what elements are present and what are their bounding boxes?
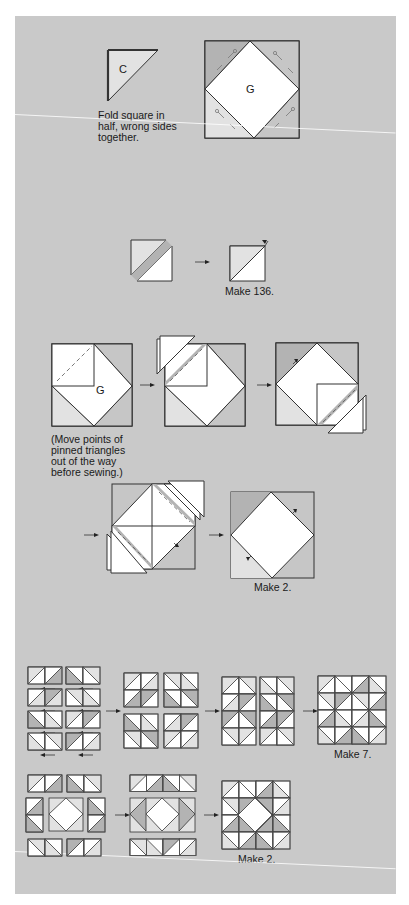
arrow-right-icon <box>204 812 219 818</box>
assembled-bottom-row <box>129 838 196 857</box>
move-points-caption: (Move points of pinned triangles out of … <box>51 434 125 478</box>
hst-column-unit <box>87 797 106 833</box>
block-half-unit <box>221 676 257 746</box>
assembled-middle-row <box>129 797 196 833</box>
block-g-label: G <box>246 84 255 95</box>
arrow-right-icon <box>115 812 130 818</box>
arrow-right-icon <box>106 708 121 714</box>
finished-block-make-7 <box>317 675 385 745</box>
hst-row-unit <box>66 774 102 793</box>
folded-triangle-c-icon <box>107 49 159 102</box>
arrow-right-icon <box>140 383 155 387</box>
arrow-right-icon <box>195 260 210 264</box>
arrow-right-icon <box>303 708 318 714</box>
hst-row-unit <box>65 666 101 685</box>
four-patch-unit <box>163 713 199 750</box>
hst-row-unit <box>66 838 102 857</box>
square-in-square-unit <box>48 797 84 832</box>
hst-row-unit <box>65 688 101 707</box>
four-patch-unit <box>123 713 159 750</box>
block-g-folded-corner-icon <box>51 343 133 428</box>
assembled-top-row <box>129 774 196 793</box>
finished-block-make-2 <box>221 780 289 850</box>
half-square-triangle-unit-icon <box>229 240 269 282</box>
arrow-right-icon <box>257 383 272 387</box>
make-136-caption: Make 136. <box>225 286 274 297</box>
hst-row-unit <box>27 838 63 857</box>
arrow-right-icon <box>78 752 93 758</box>
square-in-square-block-icon <box>230 491 315 579</box>
two-triangles-icon <box>130 239 173 282</box>
block-g-label-step3: G <box>96 385 105 396</box>
hst-row-unit <box>27 710 63 729</box>
arrow-right-icon <box>84 533 99 537</box>
hst-row-unit <box>27 774 63 793</box>
hst-row-unit <box>27 666 63 685</box>
hst-row-unit <box>27 688 63 707</box>
hst-row-unit <box>65 710 101 729</box>
four-patch-unit <box>163 672 199 709</box>
hst-column-unit <box>25 797 44 833</box>
triangle-c-label: C <box>119 64 127 75</box>
block-sewing-opposite-corners-icon <box>104 482 206 586</box>
fold-instruction-caption: Fold square in half, wrong sides togethe… <box>98 110 177 143</box>
hst-row-unit <box>27 732 63 751</box>
block-half-unit <box>259 676 295 746</box>
four-patch-unit <box>123 672 159 709</box>
make-7-caption: Make 7. <box>334 749 371 760</box>
block-g-second-corner-icon <box>275 342 367 440</box>
arrow-right-icon <box>205 708 220 714</box>
arrow-right-icon <box>209 533 224 537</box>
hst-row-unit <box>65 732 101 751</box>
arrow-right-icon <box>40 752 55 758</box>
make-2-caption-step4: Make 2. <box>254 582 291 593</box>
block-g-sewing-triangle-icon <box>156 335 248 430</box>
